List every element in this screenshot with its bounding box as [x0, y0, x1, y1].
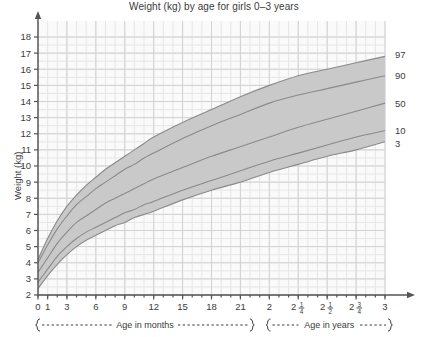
svg-text:2: 2	[349, 301, 354, 312]
y-tick-label: 16	[20, 64, 31, 75]
percentile-label-90: 90	[395, 70, 406, 81]
x-tick-label-months: 1	[45, 301, 50, 312]
svg-text:2: 2	[329, 308, 333, 315]
y-tick-label: 9	[26, 177, 31, 188]
y-axis-arrow	[35, 11, 41, 19]
axis-braces: Age in monthsAge in years	[36, 319, 393, 331]
y-tick-label: 3	[26, 273, 31, 284]
x-tick-label-months: 6	[93, 301, 98, 312]
x-tick-label-months: 3	[64, 301, 69, 312]
growth-chart: Weight (kg) by age for girls 0–3 years W…	[0, 0, 428, 337]
chart-canvas: 18171615141312111098765432 0136912151821…	[0, 0, 428, 337]
y-tick-label: 5	[26, 241, 31, 252]
x-tick-label-years: 234	[349, 301, 362, 316]
y-tick-label: 7	[26, 209, 31, 220]
y-tick-label: 14	[20, 96, 31, 107]
brace-age-in-years-text: Age in years	[304, 320, 355, 330]
svg-text:2: 2	[291, 301, 296, 312]
brace-age-in-years: Age in years	[266, 319, 392, 331]
x-tick-label-months: 12	[148, 301, 159, 312]
x-axis-arrow	[407, 292, 415, 298]
y-tick-label: 6	[26, 225, 31, 236]
brace-age-in-months-text: Age in months	[116, 320, 174, 330]
y-tick-label: 17	[20, 48, 31, 59]
y-tick-label: 10	[20, 160, 31, 171]
y-tick-label: 13	[20, 112, 31, 123]
x-tick-label-years: 2	[267, 301, 272, 312]
svg-text:1: 1	[329, 301, 333, 308]
x-tick-label-months: 9	[122, 301, 127, 312]
x-tick-label-years: 3	[382, 301, 387, 312]
y-tick-label: 12	[20, 128, 31, 139]
svg-text:2: 2	[320, 301, 325, 312]
y-tick-label: 15	[20, 80, 31, 91]
y-tick-label: 18	[20, 31, 31, 42]
x-tick-label-years: 212	[320, 301, 333, 316]
x-tick-label-months: 18	[206, 301, 217, 312]
svg-text:1: 1	[300, 301, 304, 308]
y-tick-label: 4	[26, 257, 31, 268]
x-tick-label-years: 214	[291, 301, 304, 316]
percentile-label-10: 10	[395, 125, 406, 136]
x-tick-label-months: 0	[35, 301, 40, 312]
percentile-label-3: 3	[395, 138, 400, 149]
percentile-label-97: 97	[395, 49, 406, 60]
svg-text:4: 4	[300, 308, 304, 315]
y-tick-label: 2	[26, 289, 31, 300]
x-axis-ticks: 013691215182122142122343	[35, 295, 387, 315]
percentile-label-50: 50	[395, 98, 406, 109]
x-tick-label-months: 15	[177, 301, 188, 312]
y-axis-ticks: 18171615141312111098765432	[20, 31, 38, 300]
y-tick-label: 8	[26, 193, 31, 204]
percentile-labels: 979050103	[395, 49, 406, 149]
brace-age-in-months: Age in months	[36, 319, 255, 331]
svg-text:3: 3	[358, 301, 362, 308]
svg-text:4: 4	[358, 308, 362, 315]
x-tick-label-months: 21	[235, 301, 246, 312]
y-tick-label: 11	[21, 144, 31, 155]
